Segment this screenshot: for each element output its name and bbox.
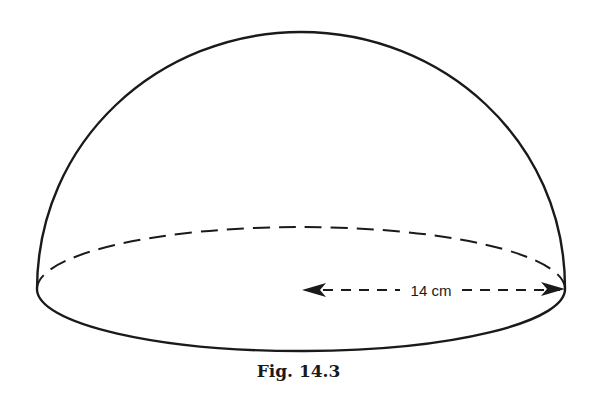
dome-outline <box>37 32 565 290</box>
right-arrow-icon <box>541 282 565 296</box>
base-front-edge <box>37 288 565 351</box>
left-arrow-icon <box>302 283 326 297</box>
figure-caption: Fig. 14.3 <box>0 361 597 381</box>
base-back-dashed <box>37 227 565 290</box>
radius-label: 14 cm <box>411 282 452 299</box>
hemisphere-figure: 14 cm <box>0 0 597 393</box>
hemisphere-drawing: 14 cm <box>0 0 597 393</box>
